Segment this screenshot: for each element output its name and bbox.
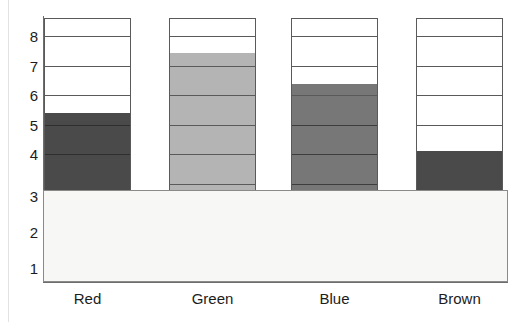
gridline-y7 [169,66,256,67]
gridline-y4 [291,154,378,155]
occluding-panel [43,190,508,282]
plot-area: 8 7 6 5 4 3 2 1 [0,0,525,322]
gridline-y3 [169,184,256,185]
gridline-y5 [169,125,256,126]
bar-chart: 8 7 6 5 4 3 2 1 [0,0,525,322]
gridline-y7 [291,66,378,67]
y-tick-label-1: 1 [8,261,38,276]
bar-blue-empty-segment [291,18,378,84]
gridline-y3 [291,184,378,185]
y-tick-label-6: 6 [8,88,38,103]
y-tick-label-5: 5 [8,117,38,132]
gridline-y8 [44,36,131,37]
gridline-y8 [416,36,503,37]
x-axis-line [43,282,508,283]
y-tick-label-8: 8 [8,29,38,44]
bar-brown-empty-segment [416,18,503,151]
y-tick-label-3: 3 [8,189,38,204]
y-tick-label-4: 4 [8,147,38,162]
gridline-y6 [416,95,503,96]
gridline-y4 [169,154,256,155]
gridline-y8 [291,36,378,37]
x-category-label-red: Red [44,291,131,306]
y-tick-label-7: 7 [8,58,38,73]
gridline-y6 [169,95,256,96]
y-tick-label-2: 2 [8,225,38,240]
gridline-y4 [44,154,131,155]
gridline-y6 [44,95,131,96]
x-category-label-blue: Blue [291,291,378,306]
gridline-y5 [416,125,503,126]
x-category-label-brown: Brown [416,291,503,306]
gridline-y6 [291,95,378,96]
gridline-y7 [44,66,131,67]
gridline-y7 [416,66,503,67]
x-category-label-green: Green [169,291,256,306]
gridline-y5 [44,125,131,126]
gridline-y5 [291,125,378,126]
gridline-y8 [169,36,256,37]
